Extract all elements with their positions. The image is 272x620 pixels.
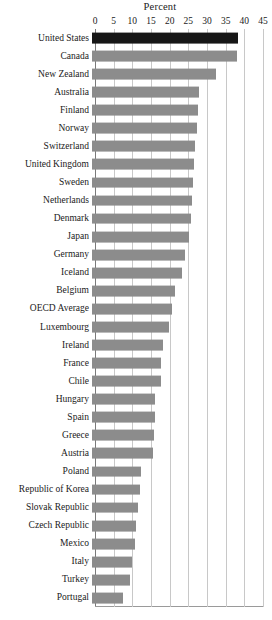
bar-row: Switzerland — [0, 137, 272, 155]
bar-portugal — [92, 593, 123, 604]
bar-ireland — [92, 340, 163, 351]
category-label: Greece — [0, 430, 92, 441]
bar-track — [92, 444, 272, 462]
bar-chile — [92, 376, 161, 387]
bar-track — [92, 264, 272, 282]
bar-track — [92, 155, 272, 173]
x-tick-label-30: 30 — [202, 15, 212, 27]
bar-track — [92, 65, 272, 83]
category-label: Australia — [0, 87, 92, 98]
category-label: OECD Average — [0, 303, 92, 314]
bar-row: Portugal — [0, 589, 272, 607]
category-label: Spain — [0, 412, 92, 423]
category-label: Denmark — [0, 213, 92, 224]
bar-track — [92, 426, 272, 444]
category-label: Switzerland — [0, 141, 92, 152]
bar-japan — [92, 231, 189, 242]
bar-rows: United StatesCanadaNew ZealandAustraliaF… — [0, 29, 272, 607]
category-label: Belgium — [0, 285, 92, 296]
bar-united-kingdom — [92, 159, 194, 170]
bar-track — [92, 535, 272, 553]
bar-norway — [92, 123, 197, 134]
bar-republic-of-korea — [92, 484, 140, 495]
bar-row: Hungary — [0, 390, 272, 408]
bar-track — [92, 589, 272, 607]
bar-netherlands — [92, 195, 192, 206]
bar-row: Austria — [0, 444, 272, 462]
x-tick-label-40: 40 — [240, 15, 250, 27]
bar-slovak-republic — [92, 502, 138, 513]
x-tick-label-25: 25 — [184, 15, 194, 27]
bar-czech-republic — [92, 520, 136, 531]
bar-row: Finland — [0, 101, 272, 119]
percent-bar-chart: Percent 051015202530354045 United States… — [0, 0, 272, 620]
bar-row: Ireland — [0, 336, 272, 354]
bar-denmark — [92, 213, 191, 224]
category-label: Portugal — [0, 592, 92, 603]
category-label: Netherlands — [0, 195, 92, 206]
bar-canada — [92, 51, 237, 62]
bar-row: Italy — [0, 553, 272, 571]
bar-track — [92, 499, 272, 517]
bar-row: Japan — [0, 228, 272, 246]
bar-track — [92, 463, 272, 481]
bar-row: Luxembourg — [0, 318, 272, 336]
bar-track — [92, 83, 272, 101]
bar-poland — [92, 466, 141, 477]
bar-track — [92, 408, 272, 426]
bar-new-zealand — [92, 69, 216, 80]
bar-austria — [92, 448, 153, 459]
bar-track — [92, 192, 272, 210]
bar-row: Spain — [0, 408, 272, 426]
category-label: Chile — [0, 376, 92, 387]
bar-row: France — [0, 354, 272, 372]
bar-row: United Kingdom — [0, 155, 272, 173]
bar-row: Poland — [0, 463, 272, 481]
bar-row: Iceland — [0, 264, 272, 282]
category-label: Hungary — [0, 394, 92, 405]
category-label: Italy — [0, 556, 92, 567]
bar-row: United States — [0, 29, 272, 47]
bar-switzerland — [92, 141, 195, 152]
bar-greece — [92, 430, 154, 441]
bar-row: Slovak Republic — [0, 499, 272, 517]
bar-italy — [92, 556, 132, 567]
bar-sweden — [92, 177, 193, 188]
bar-track — [92, 390, 272, 408]
category-label: Republic of Korea — [0, 484, 92, 495]
bar-row: Germany — [0, 246, 272, 264]
bar-australia — [92, 87, 199, 98]
bar-track — [92, 300, 272, 318]
bar-row: Denmark — [0, 210, 272, 228]
category-label: Iceland — [0, 267, 92, 278]
category-label: New Zealand — [0, 69, 92, 80]
bar-track — [92, 228, 272, 246]
category-label: Canada — [0, 51, 92, 62]
x-tick-label-5: 5 — [111, 15, 116, 27]
bar-track — [92, 553, 272, 571]
x-tick-label-15: 15 — [146, 15, 156, 27]
bar-france — [92, 358, 161, 369]
category-label: Austria — [0, 448, 92, 459]
category-label: United Kingdom — [0, 159, 92, 170]
category-label: Sweden — [0, 177, 92, 188]
bar-track — [92, 336, 272, 354]
chart-title: Percent — [0, 1, 272, 12]
bar-germany — [92, 249, 185, 260]
bar-mexico — [92, 538, 135, 549]
bar-row: Belgium — [0, 282, 272, 300]
bar-track — [92, 354, 272, 372]
bar-finland — [92, 105, 198, 116]
bar-track — [92, 174, 272, 192]
x-tick-label-45: 45 — [258, 15, 268, 27]
bar-turkey — [92, 574, 130, 585]
category-label: Slovak Republic — [0, 502, 92, 513]
category-label: Czech Republic — [0, 520, 92, 531]
bar-row: Canada — [0, 47, 272, 65]
bar-hungary — [92, 394, 155, 405]
category-label: Germany — [0, 249, 92, 260]
bar-row: Mexico — [0, 535, 272, 553]
x-tick-label-0: 0 — [93, 15, 98, 27]
bar-row: Norway — [0, 119, 272, 137]
bar-track — [92, 101, 272, 119]
